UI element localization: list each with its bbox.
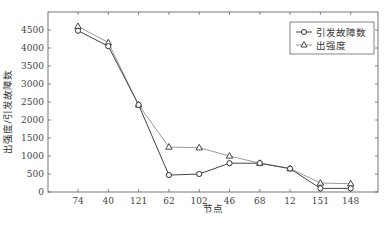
circle-marker-icon <box>197 171 202 176</box>
svg-text:引发故障数: 引发故障数 <box>316 27 366 38</box>
x-tick-label: 46 <box>224 196 236 206</box>
x-tick-label: 148 <box>342 196 359 206</box>
y-tick-label: 500 <box>27 169 44 179</box>
circle-marker-icon <box>288 166 293 171</box>
y-tick-label: 3500 <box>21 61 44 71</box>
triangle-marker-icon <box>196 144 202 150</box>
y-tick-label: 2000 <box>21 115 44 125</box>
legend: 引发故障数 出强度 <box>290 22 374 54</box>
circle-marker-icon <box>318 186 323 191</box>
x-tick-label: 74 <box>72 196 84 206</box>
x-tick-label: 12 <box>284 196 295 206</box>
x-tick-label: 121 <box>130 196 147 206</box>
x-tick-label: 40 <box>103 196 115 206</box>
y-tick-label: 2500 <box>21 97 44 107</box>
x-axis-title: 节点 <box>203 203 223 214</box>
triangle-marker-icon <box>348 180 354 186</box>
circle-marker-icon <box>136 102 141 107</box>
circle-marker-icon <box>75 28 80 33</box>
y-tick-label: 4000 <box>21 43 44 53</box>
circle-marker-icon <box>106 44 111 49</box>
y-tick-label: 1000 <box>21 151 44 161</box>
x-tick-label: 68 <box>254 196 266 206</box>
circle-marker-icon <box>227 161 232 166</box>
line-chart: 050010001500200025003000350040004500 744… <box>0 0 388 226</box>
circle-marker-icon <box>257 161 262 166</box>
circle-marker-icon <box>301 29 306 34</box>
svg-text:出强度: 出强度 <box>316 40 346 51</box>
x-tick-label: 62 <box>163 196 174 206</box>
circle-marker-icon <box>166 172 171 177</box>
y-tick-label: 4500 <box>21 25 44 35</box>
x-tick-label: 151 <box>312 196 329 206</box>
y-axis-title: 出强度/引发故障数 <box>2 70 13 153</box>
y-tick-label: 1500 <box>21 133 44 143</box>
circle-marker-icon <box>348 186 353 191</box>
y-tick-label: 0 <box>38 187 44 197</box>
y-tick-label: 3000 <box>21 79 44 89</box>
